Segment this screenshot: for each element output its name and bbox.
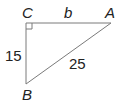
right-angle-marker	[26, 23, 32, 29]
vertex-label-a: A	[104, 4, 115, 21]
side-label-15: 15	[5, 47, 22, 64]
vertex-label-b: B	[22, 86, 32, 103]
side-label-25: 25	[69, 55, 86, 72]
side-label-b: b	[64, 4, 72, 21]
triangle-shape	[26, 23, 111, 84]
right-triangle-diagram: C A B b 15 25	[0, 0, 122, 104]
vertex-label-c: C	[22, 4, 33, 21]
